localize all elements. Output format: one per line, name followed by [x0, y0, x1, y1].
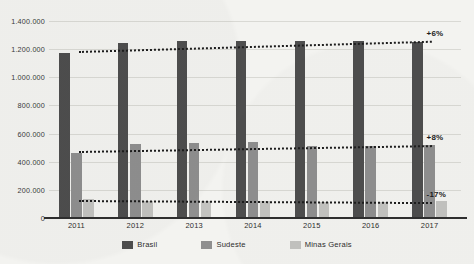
bar-minas [83, 199, 94, 218]
plot-area [49, 21, 461, 218]
legend-item-brasil[interactable]: Brasil [122, 240, 157, 249]
bar-sudeste [424, 145, 435, 218]
bar-minas [378, 202, 389, 218]
bar-group [295, 21, 330, 218]
x-axis-tick: 2016 [362, 221, 380, 230]
bar-minas [436, 201, 447, 218]
x-axis-tick: 2012 [127, 221, 145, 230]
bar-brasil [177, 41, 188, 218]
trend-annotation: -17% [427, 190, 446, 199]
legend-swatch-icon [290, 241, 301, 249]
x-axis-tick: 2014 [244, 221, 262, 230]
bar-minas [319, 202, 330, 218]
bar-brasil [118, 43, 129, 218]
y-axis-tick: 200.000 [18, 185, 45, 194]
chart-legend: BrasilSudesteMinas Gerais [0, 240, 474, 249]
bar-sudeste [71, 153, 82, 218]
y-axis-tick: 600.000 [18, 129, 45, 138]
bar-minas [201, 201, 212, 218]
y-axis-labels: 0200.000400.000600.000800.0001.000.0001.… [0, 21, 45, 218]
y-axis-tick: 1.200.000 [11, 45, 45, 54]
bar-group [177, 21, 212, 218]
x-axis-tick: 2017 [421, 221, 439, 230]
bar-sudeste [248, 142, 259, 218]
chart-container: 0200.000400.000600.000800.0001.000.0001.… [0, 0, 474, 264]
y-axis-tick: 800.000 [18, 101, 45, 110]
bar-brasil [59, 53, 70, 218]
bar-sudeste [307, 146, 318, 218]
bar-brasil [353, 41, 364, 218]
bar-group [236, 21, 271, 218]
bar-sudeste [189, 143, 200, 218]
y-axis-tick: 1.400.000 [11, 17, 45, 26]
legend-label: Minas Gerais [305, 240, 352, 249]
bar-sudeste [365, 146, 376, 218]
bar-group [353, 21, 388, 218]
bar-brasil [295, 41, 306, 218]
y-axis-tick: 1.000.000 [11, 73, 45, 82]
legend-swatch-icon [122, 241, 133, 249]
bar-brasil [236, 41, 247, 218]
legend-item-sudeste[interactable]: Sudeste [201, 240, 245, 249]
legend-item-minas[interactable]: Minas Gerais [290, 240, 352, 249]
bar-sudeste [130, 144, 141, 218]
y-axis-tick: 400.000 [18, 157, 45, 166]
legend-swatch-icon [201, 241, 212, 249]
legend-label: Brasil [137, 240, 157, 249]
legend-label: Sudeste [216, 240, 245, 249]
bar-group [412, 21, 447, 218]
x-axis-tick: 2015 [303, 221, 321, 230]
bar-brasil [412, 42, 423, 218]
trend-annotation: +8% [427, 133, 444, 142]
bar-minas [142, 201, 153, 218]
x-axis-tick: 2011 [68, 221, 85, 230]
x-axis-line [44, 217, 467, 219]
trend-annotation: +6% [427, 29, 444, 38]
bar-minas [260, 201, 271, 218]
x-axis-tick: 2013 [185, 221, 203, 230]
